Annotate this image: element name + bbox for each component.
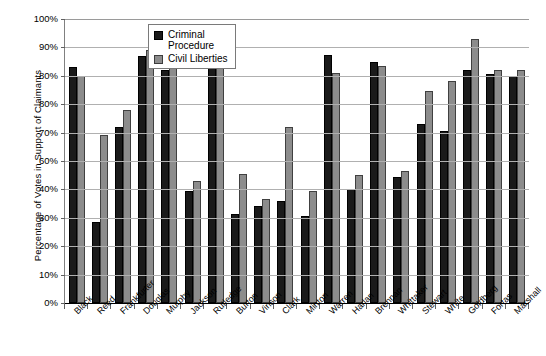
bar [393, 177, 401, 303]
bar [169, 64, 177, 303]
plot-area [64, 19, 529, 304]
y-tick-label: 20% [12, 241, 58, 251]
bar [239, 174, 247, 303]
bar [370, 62, 378, 303]
gridline [65, 104, 529, 105]
y-tick-mark [61, 275, 65, 276]
legend-label-civil-liberties: Civil Liberties [168, 53, 227, 64]
y-tick-label: 40% [12, 184, 58, 194]
bar [285, 127, 293, 303]
chart-legend: Criminal Procedure Civil Liberties [148, 24, 236, 69]
bar [254, 206, 262, 303]
bar [324, 55, 332, 304]
bar [471, 39, 479, 303]
gridline [65, 76, 529, 77]
bar [193, 181, 201, 303]
bar [277, 201, 285, 303]
bar [208, 62, 216, 303]
y-tick-mark [61, 19, 65, 20]
y-tick-mark [61, 47, 65, 48]
y-tick-label: 60% [12, 156, 58, 166]
x-axis-labels: BlackReedFrankfurterDouglasMurphyJackson… [64, 309, 528, 356]
bar [425, 91, 433, 303]
y-tick-label: 100% [12, 14, 58, 24]
y-tick-mark [61, 218, 65, 219]
gridline [65, 246, 529, 247]
bar [69, 67, 77, 303]
bar [355, 175, 363, 303]
bar-chart: Percentage of Votes in Support of Claima… [0, 0, 546, 356]
legend-label-criminal-procedure: Criminal Procedure [168, 29, 214, 51]
bar [332, 73, 340, 303]
bar [115, 127, 123, 303]
y-tick-mark [61, 189, 65, 190]
y-tick-label: 0% [12, 298, 58, 308]
bar [262, 199, 270, 303]
bar [92, 222, 100, 303]
legend-swatch-criminal-procedure-icon [154, 31, 163, 40]
legend-swatch-civil-liberties-icon [154, 55, 163, 64]
legend-item-criminal-procedure: Criminal Procedure [154, 29, 227, 51]
y-tick-label: 80% [12, 99, 58, 109]
y-tick-mark [61, 104, 65, 105]
y-tick-mark [61, 76, 65, 77]
y-tick-mark [61, 161, 65, 162]
bar [301, 216, 309, 303]
y-tick-mark [61, 246, 65, 247]
gridline [65, 218, 529, 219]
y-tick-label: 10% [12, 270, 58, 280]
gridline [65, 189, 529, 190]
gridline [65, 161, 529, 162]
gridline [65, 47, 529, 48]
bar [138, 56, 146, 303]
y-tick-label: 80% [12, 71, 58, 81]
gridline [65, 275, 529, 276]
bar [401, 171, 409, 303]
gridline [65, 19, 529, 20]
y-tick-label: 30% [12, 213, 58, 223]
bar [216, 62, 224, 303]
bar [448, 81, 456, 303]
y-tick-label: 90% [12, 42, 58, 52]
legend-item-civil-liberties: Civil Liberties [154, 53, 227, 64]
bar [378, 66, 386, 303]
y-tick-label: 70% [12, 128, 58, 138]
bar [417, 124, 425, 303]
gridline [65, 133, 529, 134]
bar [146, 50, 154, 303]
y-tick-mark [61, 133, 65, 134]
